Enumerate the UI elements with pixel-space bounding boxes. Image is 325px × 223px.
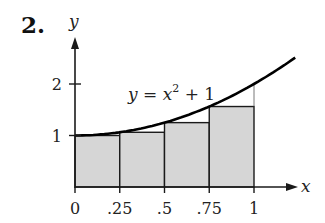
riemann-rectangles [75, 107, 254, 187]
function-label: y = x2 + 1 [127, 82, 215, 104]
x-tick-label: 1 [249, 199, 259, 218]
y-tick-label: 1 [52, 127, 62, 146]
x-tick-label: .5 [157, 199, 172, 218]
riemann-sum-figure: 2. 0.25.5.751 12 x y y = x2 + 1 [0, 0, 325, 223]
y-ticks: 12 [52, 75, 81, 146]
x-tick-label: .75 [197, 199, 222, 218]
riemann-rectangle [209, 107, 254, 187]
x-axis-arrowhead-icon [286, 183, 298, 191]
function-label-lhs: y = x [127, 84, 173, 104]
riemann-rectangle [165, 123, 210, 187]
plot-area: 0.25.5.751 12 x y y = x2 + 1 [0, 0, 325, 223]
y-axis-arrowhead-icon [71, 37, 79, 49]
problem-number: 2. [21, 11, 45, 38]
x-tick-label: .25 [107, 199, 132, 218]
y-tick-label: 2 [52, 75, 62, 94]
x-axis-label: x [301, 176, 311, 196]
riemann-rectangle [75, 136, 120, 188]
y-axis-label: y [68, 11, 79, 31]
function-label-exponent: 2 [172, 82, 179, 95]
x-tick-label: 0 [70, 199, 80, 218]
riemann-rectangle [120, 132, 165, 187]
function-label-rhs: + 1 [179, 84, 215, 104]
x-ticks: 0.25.5.751 [70, 187, 259, 218]
